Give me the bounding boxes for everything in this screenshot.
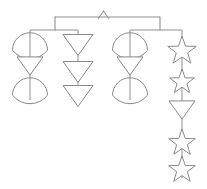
mobile-diagram <box>0 0 207 189</box>
diagram-background <box>0 0 207 189</box>
